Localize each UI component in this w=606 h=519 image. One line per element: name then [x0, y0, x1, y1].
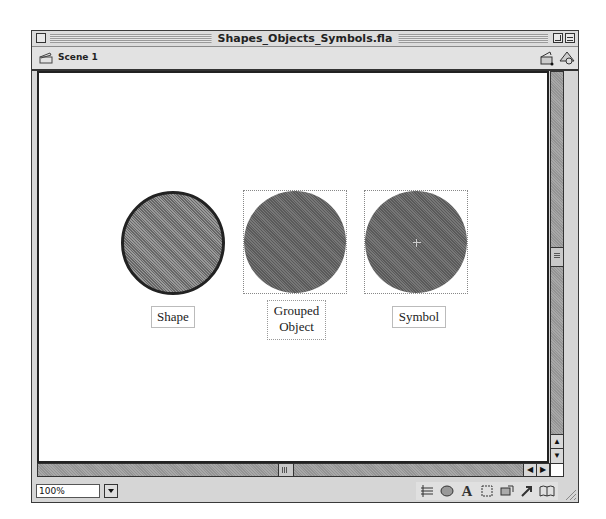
character-icon[interactable]: A — [459, 483, 475, 499]
instance-icon[interactable] — [479, 483, 495, 499]
actions-icon[interactable] — [519, 483, 535, 499]
edit-scene-icon[interactable] — [538, 49, 556, 67]
clapper-icon — [39, 52, 53, 64]
color-mixer-icon[interactable] — [439, 483, 455, 499]
scroll-right-arrow[interactable]: ▶ — [536, 464, 549, 476]
window-title: Shapes_Objects_Symbols.fla — [212, 32, 399, 45]
grouped-label-line2: Object — [268, 319, 325, 335]
title-bar[interactable]: Shapes_Objects_Symbols.fla — [32, 31, 578, 47]
grouped-label-line1: Grouped — [268, 303, 325, 319]
library-icon[interactable] — [539, 483, 555, 499]
resize-grip-icon[interactable] — [562, 486, 578, 502]
scroll-corner — [550, 463, 564, 477]
symbol-label[interactable]: Symbol — [392, 306, 446, 328]
scene-bar: Scene 1 — [32, 47, 578, 71]
zoom-level-field[interactable]: 100% — [36, 484, 100, 498]
zoom-dropdown-button[interactable] — [104, 484, 118, 498]
registration-point-icon — [413, 239, 421, 247]
shape-label[interactable]: Shape — [151, 306, 195, 328]
zoom-box-button[interactable] — [553, 33, 563, 43]
vertical-scroll-thumb[interactable] — [551, 247, 563, 267]
collapse-box-button[interactable] — [565, 33, 575, 43]
shape-circle[interactable] — [121, 191, 225, 295]
status-bar: 100% A — [32, 479, 578, 502]
edit-symbol-icon[interactable] — [558, 49, 576, 67]
horizontal-scroll-thumb[interactable] — [278, 464, 294, 476]
align-icon[interactable] — [419, 483, 435, 499]
launcher-bar: A — [416, 482, 558, 500]
grouped-object-circle[interactable] — [244, 191, 346, 293]
scroll-down-arrow[interactable]: ▼ — [551, 448, 563, 463]
close-box-button[interactable] — [36, 33, 46, 43]
scene-label: Scene 1 — [58, 52, 98, 62]
scroll-up-arrow[interactable]: ▲ — [551, 434, 563, 449]
vertical-scrollbar[interactable]: ▲ ▼ — [550, 71, 564, 463]
horizontal-scrollbar[interactable]: ◀ ▶ — [37, 463, 550, 477]
scroll-left-arrow[interactable]: ◀ — [523, 464, 536, 476]
grouped-object-label[interactable]: Grouped Object — [267, 300, 326, 340]
scene-panel-icon[interactable] — [499, 483, 515, 499]
